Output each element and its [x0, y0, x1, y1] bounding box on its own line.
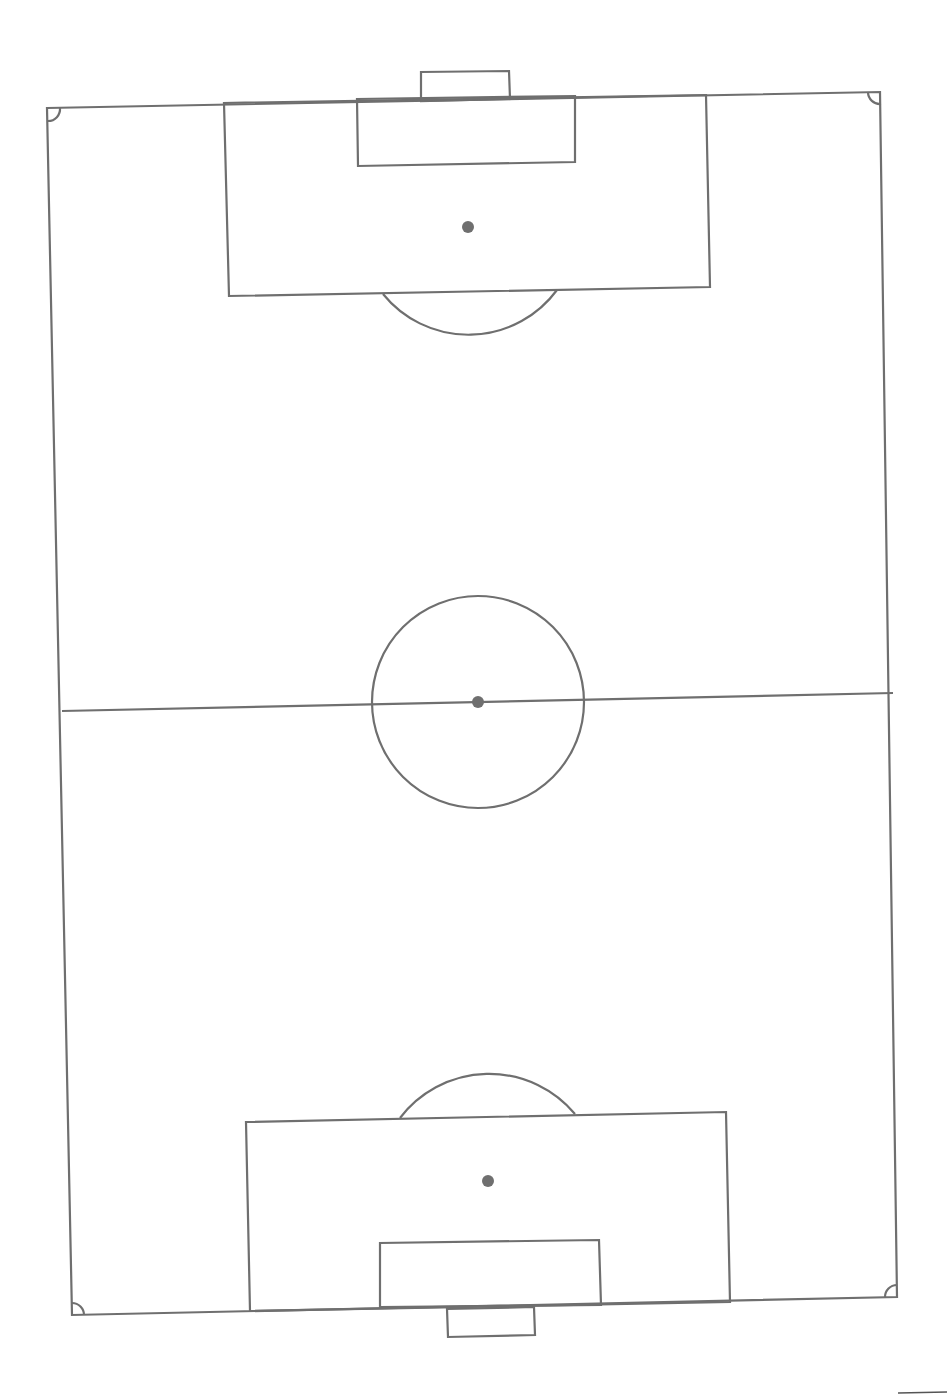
center-spot [472, 696, 484, 708]
corner-arc-3 [72, 1303, 84, 1315]
scan-artifact-line [898, 1392, 947, 1393]
pitch-boundary [47, 92, 897, 1315]
bottom-penalty-arc [400, 1074, 575, 1118]
bottom-penalty-area [246, 1112, 730, 1311]
top-penalty-spot [462, 221, 474, 233]
top-goal-area [357, 96, 575, 166]
corner-arc-2 [885, 1285, 897, 1297]
bottom-goal-area [380, 1240, 601, 1307]
top-penalty-arc [383, 290, 557, 335]
soccer-pitch-diagram [0, 0, 947, 1400]
bottom-penalty-spot [482, 1175, 494, 1187]
bottom-goal [447, 1307, 535, 1337]
corner-arc-0 [48, 108, 60, 121]
top-penalty-area [224, 95, 710, 296]
